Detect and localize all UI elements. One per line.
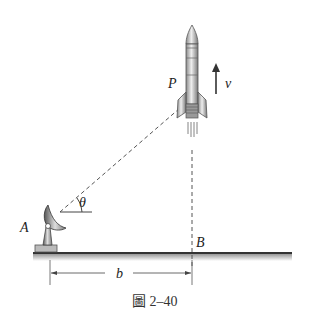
label-v: v	[225, 76, 232, 91]
angle-theta-indicator	[60, 198, 92, 212]
label-a: A	[19, 220, 29, 235]
label-theta: θ	[79, 195, 86, 210]
label-b-distance: b	[116, 266, 123, 281]
ground	[33, 253, 292, 261]
label-b-point: B	[196, 235, 205, 250]
line-of-sight	[60, 108, 180, 212]
rocket-icon	[177, 25, 207, 137]
label-p: P	[167, 76, 177, 91]
velocity-arrow-icon	[212, 63, 220, 94]
rocket-tracking-diagram: θ A P v B b	[0, 0, 309, 329]
figure-caption: 圖 2–40	[132, 294, 178, 309]
